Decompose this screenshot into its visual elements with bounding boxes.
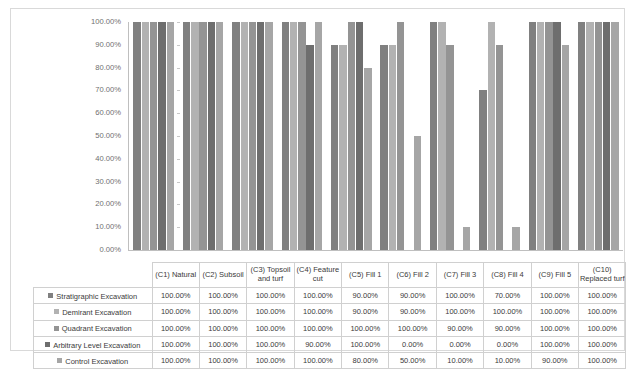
table-row: Demirant Excavation100.00%100.00%100.00%…: [34, 304, 626, 320]
table-cell-value: 90.00%: [531, 353, 578, 369]
table-cell-value: 10.00%: [484, 353, 531, 369]
table-cell-value: 100.00%: [152, 320, 199, 336]
bar: [380, 45, 387, 250]
table-cell-value: 100.00%: [579, 353, 626, 369]
table-column-header: (C4) Feature cut: [294, 263, 341, 288]
bar: [183, 22, 190, 250]
y-axis-tick-label: 70.00%: [95, 85, 121, 95]
plot-region: 100.00%90.00%80.00%70.00%60.00%50.00%40.…: [11, 9, 626, 262]
y-axis-tick-label: 60.00%: [95, 108, 121, 118]
table-column-header: (C1) Natural: [152, 263, 199, 288]
series-label-cell: Arbitrary Level Excavation: [34, 336, 153, 352]
series-label-cell: Demirant Excavation: [34, 304, 153, 320]
table-cell-value: 100.00%: [531, 320, 578, 336]
table-cell-value: 100.00%: [294, 320, 341, 336]
table-header-row: (C1) Natural(C2) Subsoil(C3) Topsoil and…: [34, 263, 626, 288]
y-axis: 100.00%90.00%80.00%70.00%60.00%50.00%40.…: [63, 17, 125, 255]
bar: [430, 22, 437, 250]
legend-swatch-icon: [48, 293, 53, 298]
bar: [282, 22, 289, 250]
bar: [364, 68, 371, 250]
table-cell-value: 0.00%: [484, 336, 531, 352]
y-axis-tick-label: 0.00%: [99, 245, 121, 255]
bar: [537, 22, 544, 250]
bar-group: [524, 22, 573, 250]
bar: [356, 22, 363, 250]
table-cell-value: 90.00%: [342, 288, 389, 304]
bar: [150, 22, 157, 250]
bar: [488, 22, 495, 250]
table-row: Stratigraphic Excavation100.00%100.00%10…: [34, 288, 626, 304]
bar: [133, 22, 140, 250]
y-axis-tick-label: 40.00%: [95, 154, 121, 164]
table-cell-value: 90.00%: [342, 304, 389, 320]
bar: [562, 45, 569, 250]
table-body: Stratigraphic Excavation100.00%100.00%10…: [34, 288, 626, 369]
table-column-header: (C10) Replaced turf: [579, 263, 626, 288]
series-label-text: Arbitrary Level Excavation: [53, 340, 140, 349]
table-cell-value: 100.00%: [342, 336, 389, 352]
y-axis-tick-label: 20.00%: [95, 199, 121, 209]
table-cell-value: 100.00%: [294, 353, 341, 369]
bar: [348, 22, 355, 250]
bar: [446, 45, 453, 250]
table-cell-value: 100.00%: [294, 288, 341, 304]
bar: [232, 22, 239, 250]
bar-group: [129, 22, 178, 250]
table-column-header: (C8) Fill 4: [484, 263, 531, 288]
table-cell-value: 10.00%: [436, 353, 483, 369]
bar: [249, 22, 256, 250]
bar: [578, 22, 585, 250]
table-cell-value: 100.00%: [579, 336, 626, 352]
legend-swatch-icon: [54, 326, 59, 331]
bar-group: [228, 22, 277, 250]
bar-group: [277, 22, 326, 250]
bar: [306, 45, 313, 250]
table-cell-value: 100.00%: [342, 320, 389, 336]
bar: [479, 90, 486, 250]
bar: [389, 45, 396, 250]
series-label-cell: Quadrant Excavation: [34, 320, 153, 336]
table-header: (C1) Natural(C2) Subsoil(C3) Topsoil and…: [34, 263, 626, 288]
bar: [216, 22, 223, 250]
table-cell-value: 90.00%: [484, 320, 531, 336]
bar-group: [178, 22, 227, 250]
y-axis-tick-label: 90.00%: [95, 40, 121, 50]
table-column-header: (C9) Fill 5: [531, 263, 578, 288]
bar-group: [376, 22, 425, 250]
bar: [158, 22, 165, 250]
bar: [414, 136, 421, 250]
table-cell-value: 100.00%: [579, 288, 626, 304]
bar: [496, 45, 503, 250]
table-cell-value: 100.00%: [531, 288, 578, 304]
bar: [142, 22, 149, 250]
bar-group: [425, 22, 474, 250]
table-cell-value: 0.00%: [436, 336, 483, 352]
legend-swatch-icon: [57, 358, 62, 363]
legend-swatch-icon: [54, 309, 59, 314]
table-column-header: (C3) Topsoil and turf: [247, 263, 294, 288]
series-label-text: Control Excavation: [65, 357, 128, 366]
table-cell-value: 100.00%: [152, 353, 199, 369]
bar: [463, 227, 470, 250]
table-cell-value: 100.00%: [579, 320, 626, 336]
table-column-header: (C7) Fill 3: [436, 263, 483, 288]
table-cell-value: 100.00%: [199, 288, 246, 304]
table-cell-value: 100.00%: [531, 304, 578, 320]
bar: [199, 22, 206, 250]
table-cell-value: 100.00%: [247, 336, 294, 352]
legend-swatch-icon: [45, 342, 50, 347]
bar: [257, 22, 264, 250]
table-cell-value: 100.00%: [199, 353, 246, 369]
bar: [339, 45, 346, 250]
bar: [595, 22, 602, 250]
bar-group: [327, 22, 376, 250]
table-cell-value: 90.00%: [294, 336, 341, 352]
y-axis-tick-label: 30.00%: [95, 177, 121, 187]
table-cell-value: 100.00%: [152, 288, 199, 304]
table-cell-value: 100.00%: [484, 304, 531, 320]
table-cell-value: 90.00%: [436, 320, 483, 336]
table-cell-value: 90.00%: [389, 304, 436, 320]
bar: [611, 22, 618, 250]
table-corner-cell: [34, 263, 153, 288]
